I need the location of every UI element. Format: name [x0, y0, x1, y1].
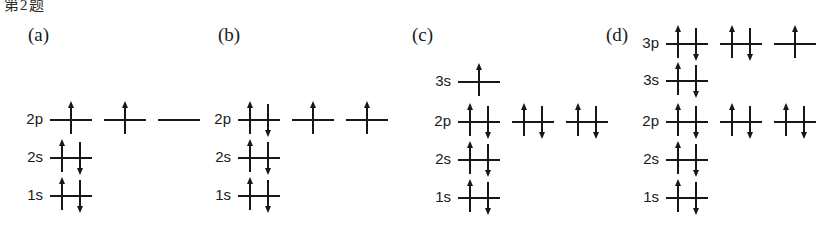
orbital-c-2p-1	[458, 121, 500, 123]
arrow-head	[675, 62, 681, 69]
arrow-stem	[478, 66, 480, 96]
arrow-head	[310, 101, 316, 108]
orbital-a-2p-3	[158, 119, 200, 121]
arrow-head	[122, 101, 128, 108]
arrow-head	[575, 103, 581, 110]
orbital-a-2s-1	[50, 157, 92, 159]
orbital-d-2p-2	[720, 121, 762, 123]
arrow-head	[247, 177, 253, 184]
arrow-head	[521, 103, 527, 110]
orbital-d-3p-1	[666, 43, 708, 45]
orbital-d-3p-2	[720, 43, 762, 45]
orbital-d-2s-1	[666, 159, 708, 161]
arrow-stem	[249, 180, 251, 210]
arrow-stem	[677, 182, 679, 212]
arrow-head	[265, 168, 271, 175]
orbital-b-2p-1	[238, 119, 280, 121]
arrow-head	[467, 179, 473, 186]
panel-caption-c: (c)	[412, 25, 433, 44]
arrow-head	[265, 130, 271, 137]
arrow-stem	[469, 144, 471, 174]
arrow-head	[485, 208, 491, 215]
panel-caption-d: (d)	[606, 25, 628, 44]
arrow-stem	[731, 28, 733, 58]
orbital-c-2s-1	[458, 159, 500, 161]
arrow-stem	[469, 106, 471, 136]
level-label-d-3p: 3p	[642, 34, 659, 51]
arrow-head	[675, 103, 681, 110]
arrow-stem	[469, 182, 471, 212]
level-label-a-2s: 2s	[27, 148, 43, 165]
arrow-stem	[312, 104, 314, 134]
arrow-stem	[677, 144, 679, 174]
orbital-b-1s-1	[238, 195, 280, 197]
arrow-head	[729, 25, 735, 32]
arrow-head	[364, 101, 370, 108]
arrow-head	[729, 103, 735, 110]
arrow-stem	[577, 106, 579, 136]
arrow-head	[59, 139, 65, 146]
panel-caption-b: (b)	[218, 25, 240, 44]
level-label-b-1s: 1s	[215, 186, 231, 203]
level-label-b-2p: 2p	[214, 110, 231, 127]
orbital-c-1s-1	[458, 197, 500, 199]
arrow-head	[801, 132, 807, 139]
orbital-a-1s-1	[50, 195, 92, 197]
arrow-stem	[70, 104, 72, 134]
panel-caption-a: (a)	[28, 25, 49, 44]
level-label-a-1s: 1s	[27, 186, 43, 203]
arrow-head	[675, 179, 681, 186]
arrow-head	[77, 168, 83, 175]
arrow-head	[675, 25, 681, 32]
orbital-b-2s-1	[238, 157, 280, 159]
arrow-head	[693, 54, 699, 61]
orbital-c-2p-2	[512, 121, 554, 123]
arrow-head	[693, 91, 699, 98]
arrow-head	[77, 206, 83, 213]
arrow-head	[247, 101, 253, 108]
level-label-b-2s: 2s	[215, 148, 231, 165]
orbital-d-3s-1	[666, 80, 708, 82]
arrow-stem	[731, 106, 733, 136]
arrow-head	[593, 132, 599, 139]
arrow-head	[247, 139, 253, 146]
level-label-a-2p: 2p	[26, 110, 43, 127]
arrow-head	[783, 103, 789, 110]
arrow-head	[693, 208, 699, 215]
arrow-head	[485, 132, 491, 139]
arrow-stem	[366, 104, 368, 134]
arrow-head	[476, 63, 482, 70]
orbital-c-2p-3	[566, 121, 608, 123]
arrow-stem	[785, 106, 787, 136]
arrow-head	[68, 101, 74, 108]
level-label-c-2p: 2p	[434, 112, 451, 129]
arrow-stem	[523, 106, 525, 136]
arrow-head	[539, 132, 545, 139]
level-label-c-3s: 3s	[435, 72, 451, 89]
arrow-head	[747, 54, 753, 61]
level-label-d-1s: 1s	[643, 188, 659, 205]
level-label-d-2p: 2p	[642, 112, 659, 129]
arrow-head	[747, 132, 753, 139]
arrow-head	[485, 170, 491, 177]
arrow-stem	[677, 65, 679, 95]
arrow-stem	[677, 28, 679, 58]
arrow-head	[467, 141, 473, 148]
arrow-head	[792, 25, 798, 32]
cropped-header-text: 第2题	[4, 0, 45, 14]
level-label-c-2s: 2s	[435, 150, 451, 167]
level-label-c-1s: 1s	[435, 188, 451, 205]
orbital-d-1s-1	[666, 197, 708, 199]
arrow-head	[693, 170, 699, 177]
level-label-d-2s: 2s	[643, 150, 659, 167]
arrow-stem	[249, 104, 251, 134]
arrow-stem	[677, 106, 679, 136]
level-label-d-3s: 3s	[643, 71, 659, 88]
arrow-stem	[61, 142, 63, 172]
orbital-d-2p-3	[774, 121, 816, 123]
arrow-head	[693, 132, 699, 139]
orbital-d-2p-1	[666, 121, 708, 123]
arrow-stem	[124, 104, 126, 134]
arrow-head	[265, 206, 271, 213]
arrow-stem	[794, 28, 796, 58]
